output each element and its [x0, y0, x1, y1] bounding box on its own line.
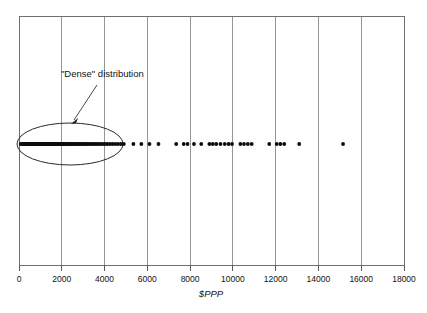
x-axis-tick-label: 2000	[52, 274, 71, 284]
data-point	[207, 142, 211, 146]
x-axis-tick-label: 4000	[95, 274, 114, 284]
x-axis-title: $PPP	[198, 288, 224, 299]
data-point	[297, 142, 301, 146]
data-point	[186, 142, 190, 146]
data-point	[132, 142, 136, 146]
data-point	[250, 142, 254, 146]
data-point	[139, 142, 143, 146]
data-point	[238, 142, 242, 146]
x-axis-tick-label: 14000	[307, 274, 331, 284]
data-point	[174, 142, 178, 146]
x-axis-tick-label: 0	[17, 274, 22, 284]
chart-figure: 0200040006000800010000120001400016000180…	[0, 0, 427, 313]
x-axis-tick-label: 10000	[221, 274, 245, 284]
data-point	[219, 142, 223, 146]
data-point	[214, 142, 218, 146]
x-axis-tick-label: 16000	[349, 274, 373, 284]
dense-distribution-label: "Dense" distribution	[61, 68, 144, 79]
x-axis-tick-label: 12000	[264, 274, 288, 284]
data-point	[341, 142, 345, 146]
dot-plot-svg: 0200040006000800010000120001400016000180…	[0, 0, 427, 313]
data-point	[282, 142, 286, 146]
x-axis-tick-label: 18000	[392, 274, 416, 284]
data-point	[267, 142, 271, 146]
chart-background	[0, 0, 427, 313]
x-axis-tick-label: 6000	[138, 274, 157, 284]
data-point	[211, 142, 215, 146]
data-point	[157, 142, 161, 146]
x-axis-tick-label: 8000	[181, 274, 200, 284]
data-point	[223, 142, 227, 146]
data-point	[122, 142, 126, 146]
data-point	[192, 142, 196, 146]
data-point	[275, 142, 279, 146]
data-point	[148, 142, 152, 146]
data-point	[227, 142, 231, 146]
data-point	[242, 142, 246, 146]
data-point	[230, 142, 234, 146]
data-point	[182, 142, 186, 146]
data-point	[246, 142, 250, 146]
data-point	[199, 142, 203, 146]
data-point	[278, 142, 282, 146]
